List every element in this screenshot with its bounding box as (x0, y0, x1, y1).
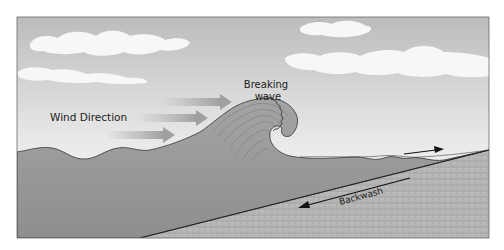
label-wind-direction: Wind Direction (50, 111, 127, 123)
breaking-wave-diagram: Wind Direction Breaking wave Backwash (0, 0, 504, 250)
cloud-top-right (300, 21, 371, 37)
label-breaking-wave-2: wave (255, 91, 281, 102)
label-breaking-wave-1: Breaking (244, 79, 288, 90)
